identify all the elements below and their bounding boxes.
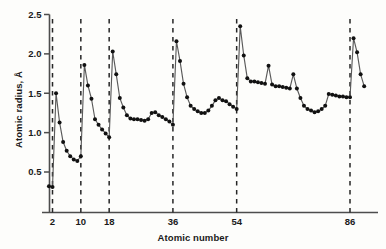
data-point xyxy=(125,113,129,117)
data-point xyxy=(259,81,263,85)
data-point xyxy=(128,116,132,120)
y-tick-label: 0.5 xyxy=(28,166,42,177)
data-point xyxy=(284,86,288,90)
data-point xyxy=(309,109,313,113)
data-point xyxy=(192,107,196,111)
data-point xyxy=(47,184,51,188)
data-point xyxy=(139,118,143,122)
data-point xyxy=(337,94,341,98)
y-tick-label: 2.5 xyxy=(28,9,42,20)
data-point xyxy=(355,50,359,54)
data-point xyxy=(136,117,140,121)
data-point xyxy=(171,123,175,127)
data-point xyxy=(267,64,271,68)
data-point xyxy=(221,98,225,102)
data-points xyxy=(47,24,366,189)
data-point xyxy=(362,84,366,88)
data-point xyxy=(75,159,79,163)
data-point xyxy=(323,104,327,108)
axes-group xyxy=(42,15,378,213)
data-point xyxy=(231,105,235,109)
data-point xyxy=(199,111,203,115)
data-point xyxy=(252,79,256,83)
data-point xyxy=(143,119,147,123)
y-tick-label: 1.5 xyxy=(28,88,42,99)
data-point xyxy=(348,95,352,99)
data-point xyxy=(270,83,274,87)
data-point xyxy=(58,120,62,124)
x-tick-label: 10 xyxy=(76,216,87,227)
data-point xyxy=(277,84,281,88)
data-point xyxy=(82,63,86,67)
x-tick-label: 86 xyxy=(345,216,356,227)
data-point xyxy=(79,154,83,158)
data-point xyxy=(330,93,334,97)
data-point xyxy=(150,111,154,115)
data-point xyxy=(164,117,168,121)
data-point xyxy=(189,104,193,108)
data-point xyxy=(334,94,338,98)
data-point xyxy=(306,107,310,111)
data-point xyxy=(182,82,186,86)
data-point xyxy=(111,50,115,54)
data-point xyxy=(344,95,348,99)
data-point xyxy=(114,72,118,76)
data-point xyxy=(153,110,157,114)
chart-plot-area: 0.51.01.52.02.521018365486 xyxy=(0,0,386,249)
data-point xyxy=(68,154,72,158)
x-tick-label: 36 xyxy=(168,216,179,227)
data-point xyxy=(313,110,317,114)
data-point xyxy=(61,140,65,144)
data-point xyxy=(291,72,295,76)
data-point xyxy=(295,87,299,91)
data-point xyxy=(174,39,178,43)
data-point xyxy=(104,131,108,135)
data-point xyxy=(93,117,97,121)
data-point xyxy=(132,117,136,121)
data-point xyxy=(196,109,200,113)
y-tick-label: 1.0 xyxy=(28,127,41,138)
data-point xyxy=(263,82,267,86)
data-point xyxy=(213,98,217,102)
data-point xyxy=(203,111,207,115)
y-axis-title: Atomic radius, Å xyxy=(13,66,24,154)
data-line xyxy=(49,26,364,187)
data-point xyxy=(86,83,90,87)
data-point xyxy=(281,85,285,89)
data-point xyxy=(352,36,356,40)
data-point xyxy=(298,96,302,100)
tick-marks xyxy=(44,15,50,173)
data-point xyxy=(210,104,214,108)
atomic-radius-chart-figure: 0.51.01.52.02.521018365486 Atomic radius… xyxy=(0,0,386,249)
data-point xyxy=(327,92,331,96)
x-tick-label: 54 xyxy=(231,216,242,227)
data-point xyxy=(54,91,58,95)
tick-labels: 0.51.01.52.02.521018365486 xyxy=(28,9,355,227)
x-axis-title: Atomic number xyxy=(0,232,386,243)
data-point xyxy=(302,104,306,108)
data-point xyxy=(157,113,161,117)
data-point xyxy=(359,72,363,76)
data-point xyxy=(97,123,101,127)
data-point xyxy=(224,99,228,103)
data-point xyxy=(249,79,253,83)
data-point xyxy=(72,157,76,161)
data-point xyxy=(178,59,182,63)
data-point xyxy=(341,94,345,98)
x-tick-label: 18 xyxy=(104,216,115,227)
x-tick-label: 2 xyxy=(50,216,55,227)
data-point xyxy=(245,76,249,80)
data-point xyxy=(238,24,242,28)
data-point xyxy=(146,117,150,121)
data-point xyxy=(316,109,320,113)
data-point xyxy=(121,105,125,109)
data-point xyxy=(256,80,260,84)
y-tick-label: 2.0 xyxy=(28,48,41,59)
data-point xyxy=(235,107,239,111)
data-point xyxy=(206,109,210,113)
data-point xyxy=(288,87,292,91)
data-point xyxy=(118,96,122,100)
data-point xyxy=(100,127,104,131)
data-point xyxy=(89,97,93,101)
data-point xyxy=(167,120,171,124)
